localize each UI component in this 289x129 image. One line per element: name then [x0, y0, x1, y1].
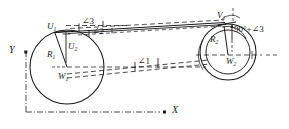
- point-u2-label: U2: [68, 42, 77, 52]
- axis-y-marker: [24, 51, 27, 54]
- figure-canvas: Y X U1 U2 R1 W1 V1 R2 W2 ∠3 ∠2 ∠1 90°+∠3: [0, 0, 289, 129]
- angle-right-label: 90°+∠3: [234, 25, 264, 34]
- lower-tangent-dashed-2: [67, 64, 210, 78]
- angle-3-label: ∠3: [82, 17, 94, 26]
- axis-x-label: X: [172, 105, 178, 115]
- point-u1-label: U1: [47, 22, 56, 32]
- angle-2-label: ∠2: [92, 27, 104, 36]
- center-w2-label: W2: [226, 57, 236, 67]
- angle-1-label: ∠1: [138, 57, 150, 66]
- axis-y-label: Y: [9, 45, 15, 55]
- radius-r2-label: R2: [210, 35, 218, 45]
- radius-r1-line: [55, 33, 67, 67]
- point-v1-label: V1: [217, 11, 225, 21]
- center-w1-label: W1: [58, 72, 68, 82]
- radius-r1-label: R1: [47, 50, 55, 60]
- axis-x-marker: [163, 111, 166, 114]
